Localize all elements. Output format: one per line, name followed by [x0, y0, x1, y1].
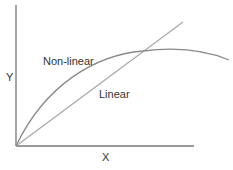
diagram-canvas: Non-linear Linear Y X: [0, 0, 233, 170]
y-axis-label: Y: [6, 71, 14, 83]
non-linear-label: Non-linear: [43, 55, 94, 67]
x-axis-label: X: [102, 151, 110, 163]
linear-label: Linear: [99, 88, 130, 100]
linear-line: [16, 22, 183, 146]
